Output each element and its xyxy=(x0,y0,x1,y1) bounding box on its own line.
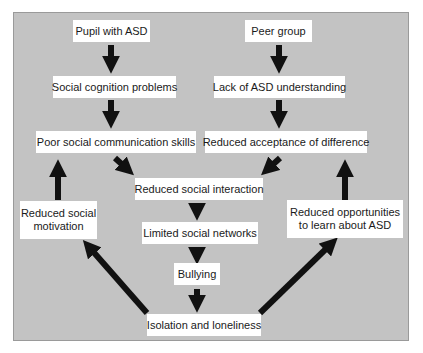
node-label: Limited social networks xyxy=(143,227,257,240)
node-social-cognition-problems: Social cognition problems xyxy=(53,76,176,98)
node-label-line-1: Reduced opportunities xyxy=(290,206,400,219)
node-label: Poor social communication skills xyxy=(37,136,195,149)
node-label-line-1: Reduced social xyxy=(21,207,96,220)
node-bullying: Bullying xyxy=(174,263,220,285)
node-pupil-with-asd: Pupil with ASD xyxy=(73,20,150,42)
node-reduced-social-interaction: Reduced social interaction xyxy=(135,178,263,200)
node-label: Social cognition problems xyxy=(52,81,177,94)
arrow-acceptance-to-interaction xyxy=(269,158,280,168)
node-label: Lack of ASD understanding xyxy=(213,81,346,94)
node-label: Isolation and loneliness xyxy=(147,319,261,332)
node-label: Bullying xyxy=(178,268,217,281)
node-reduced-social-motivation: Reduced social motivation xyxy=(20,201,97,239)
node-reduced-acceptance-of-difference: Reduced acceptance of difference xyxy=(205,131,367,153)
arrow-communication-to-interaction xyxy=(115,158,126,168)
node-reduced-opportunities: Reduced opportunities to learn about ASD xyxy=(287,200,403,238)
node-label: Reduced acceptance of difference xyxy=(203,136,370,149)
node-label: Reduced social interaction xyxy=(134,183,263,196)
node-lack-of-asd-understanding: Lack of ASD understanding xyxy=(214,76,345,98)
node-isolation-and-loneliness: Isolation and loneliness xyxy=(147,314,261,336)
node-limited-social-networks: Limited social networks xyxy=(142,222,258,244)
arrow-isolation-to-motivation xyxy=(90,248,147,313)
node-label-line-2: to learn about ASD xyxy=(299,219,391,232)
node-label: Pupil with ASD xyxy=(75,25,147,38)
node-peer-group: Peer group xyxy=(245,20,312,42)
arrows-layer xyxy=(0,0,423,353)
node-poor-social-communication-skills: Poor social communication skills xyxy=(36,131,196,153)
node-label: Peer group xyxy=(251,25,305,38)
arrow-isolation-to-opportunities xyxy=(260,245,330,313)
node-label-line-2: motivation xyxy=(33,220,83,233)
